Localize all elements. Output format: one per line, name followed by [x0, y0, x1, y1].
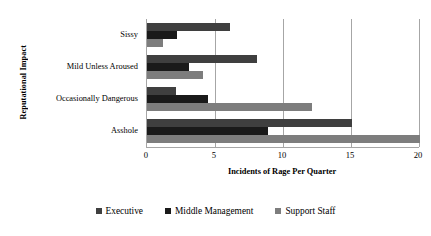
- x-tick-label: 10: [278, 150, 287, 160]
- bar: [147, 31, 177, 39]
- bar: [147, 135, 420, 143]
- legend-swatch-icon: [275, 208, 281, 214]
- category-label: Occasionally Dangerous: [32, 94, 138, 103]
- category-label: Mild Unless Aroused: [32, 62, 138, 71]
- bar-chart: Reputational Impact SissyMild Unless Aro…: [0, 0, 431, 236]
- bar: [147, 63, 189, 71]
- chart-legend: ExecutiveMiddle ManagementSupport Staff: [0, 206, 431, 216]
- bar: [147, 55, 257, 63]
- bar: [147, 23, 230, 31]
- bar: [147, 95, 208, 103]
- y-axis-category-labels: SissyMild Unless ArousedOccasionally Dan…: [32, 19, 142, 147]
- plot-area: [146, 19, 419, 148]
- legend-swatch-icon: [96, 208, 102, 214]
- bar-group: [147, 55, 419, 79]
- legend-label: Support Staff: [285, 206, 335, 216]
- bar: [147, 87, 176, 95]
- bar-group: [147, 87, 419, 111]
- bar: [147, 71, 203, 79]
- bar: [147, 127, 268, 135]
- legend-label: Executive: [106, 206, 143, 216]
- x-tick-label: 0: [144, 150, 148, 160]
- legend-label: Middle Management: [175, 206, 253, 216]
- gridline: [419, 19, 420, 147]
- y-axis-title: Reputational Impact: [14, 12, 32, 152]
- bar: [147, 119, 352, 127]
- legend-swatch-icon: [165, 208, 171, 214]
- category-label: Sissy: [32, 30, 138, 39]
- category-label: Asshole: [32, 126, 138, 135]
- legend-item[interactable]: Executive: [96, 206, 143, 216]
- x-axis-title: Incidents of Rage Per Quarter: [146, 167, 418, 176]
- bar: [147, 103, 312, 111]
- legend-item[interactable]: Middle Management: [165, 206, 253, 216]
- x-tick-label: 5: [212, 150, 216, 160]
- bar-group: [147, 23, 419, 47]
- legend-item[interactable]: Support Staff: [275, 206, 335, 216]
- x-tick-label: 20: [414, 150, 423, 160]
- bar: [147, 39, 163, 47]
- x-tick-label: 15: [346, 150, 355, 160]
- y-axis-title-text: Reputational Impact: [19, 45, 28, 119]
- x-axis-tick-labels: 05101520: [146, 150, 418, 164]
- bar-group: [147, 119, 419, 143]
